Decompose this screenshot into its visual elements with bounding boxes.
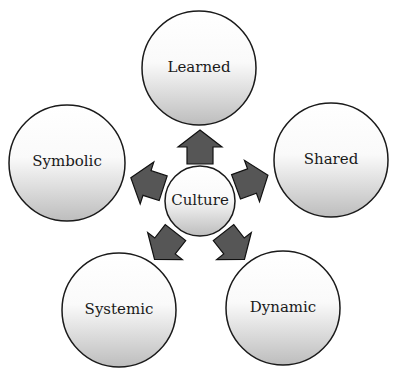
arrow-to-symbolic: [124, 157, 170, 209]
node-systemic-label: Systemic: [85, 300, 154, 318]
node-shared-label: Shared: [304, 150, 359, 168]
node-learned-label: Learned: [167, 58, 230, 76]
node-symbolic: Symbolic: [9, 105, 125, 221]
node-dynamic-label: Dynamic: [250, 298, 317, 316]
node-learned: Learned: [142, 11, 256, 125]
node-culture-center: Culture: [165, 166, 235, 236]
node-culture-label: Culture: [171, 191, 229, 209]
node-shared: Shared: [274, 103, 388, 217]
node-systemic: Systemic: [62, 253, 176, 367]
culture-diagram: Learned Shared Dynamic Systemic Symbolic…: [0, 0, 399, 376]
node-dynamic: Dynamic: [226, 251, 340, 365]
arrow-to-learned: [178, 130, 222, 164]
node-symbolic-label: Symbolic: [32, 152, 102, 170]
